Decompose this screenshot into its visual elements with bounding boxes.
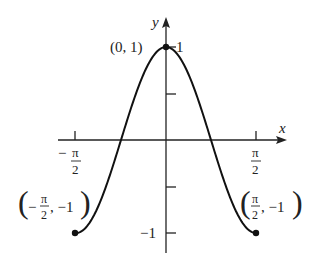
y-axis-label: y <box>150 14 159 30</box>
close-paren: ) <box>80 184 91 220</box>
point-right-min <box>253 230 259 236</box>
x-axis-label: x <box>278 120 286 136</box>
point-left-min <box>72 230 78 236</box>
pi-numerator: π <box>252 192 258 206</box>
pi-numerator: π <box>252 145 259 160</box>
x-tick-label-pi-half: π 2 <box>251 145 261 177</box>
point-tail: , −1 <box>50 199 73 215</box>
pi-numerator: π <box>72 145 79 160</box>
label-left-point: ( − π 2 , −1 ) <box>18 184 91 222</box>
point-max <box>163 44 169 50</box>
denominator: 2 <box>252 162 259 177</box>
y-tick-label-neg-1: −1 <box>140 225 156 241</box>
pi-numerator: π <box>41 192 47 206</box>
x-tick-label-neg-pi-half: − π 2 <box>58 145 81 177</box>
minus-sign: − <box>28 199 36 215</box>
open-paren: ( <box>240 184 251 220</box>
close-paren: ) <box>292 184 303 220</box>
point-tail: , −1 <box>261 199 284 215</box>
minus-sign: − <box>58 145 66 161</box>
denominator: 2 <box>72 162 79 177</box>
denominator: 2 <box>41 208 47 222</box>
label-right-point: ( π 2 , −1 ) <box>240 184 303 222</box>
label-top-point: (0, 1) <box>110 39 143 56</box>
denominator: 2 <box>252 208 258 222</box>
cosine-graph: x y 1 −1 − π 2 π 2 (0, 1) ( − π 2 , −1 ) <box>0 0 312 264</box>
